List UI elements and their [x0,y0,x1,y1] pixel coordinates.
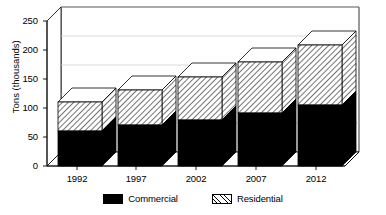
y-tick-200: 200 [8,45,38,55]
x-tick-1992: 1992 [54,174,100,184]
x-tick-2012: 2012 [293,174,339,184]
x-tick-2007: 2007 [233,174,279,184]
y-tick-100: 100 [8,103,38,113]
bar-1997 [118,76,176,166]
legend-label-residential: Residential [237,194,283,204]
bar-2012 [298,31,356,166]
y-tick-50: 50 [8,132,38,142]
bar-2002 [178,63,236,166]
chart-container: Tons (thousands) 250 200 150 100 50 0 19… [0,0,386,215]
bar-2007 [238,48,296,166]
y-axis [43,21,47,166]
bar-1992 [58,88,116,166]
x-tick-2002: 2002 [173,174,219,184]
x-tick-1997: 1997 [113,174,159,184]
y-tick-150: 150 [8,74,38,84]
legend-label-commercial: Commercial [128,194,178,204]
legend-swatch-commercial-icon [103,194,123,204]
x-axis [47,166,345,170]
y-tick-0: 0 [8,161,38,171]
chart-legend: Commercial Residential [0,194,386,204]
y-tick-250: 250 [8,16,38,26]
legend-entry-residential: Residential [212,194,283,204]
legend-swatch-residential-icon [212,194,232,204]
legend-entry-commercial: Commercial [103,194,178,204]
